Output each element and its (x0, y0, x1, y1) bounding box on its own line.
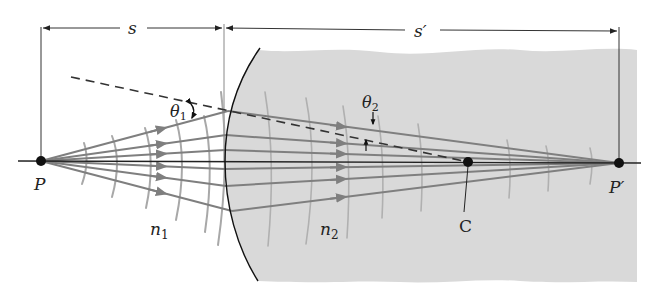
label-P-prime: P′ (608, 177, 624, 197)
incident-ray-arrows (150, 129, 162, 193)
label-n1: n1 (150, 219, 169, 242)
label-C: C (459, 216, 472, 236)
refraction-diagram: s s′ P P′ C n1 n2 θ1 θ2 (0, 0, 651, 305)
label-theta1: θ1 (170, 102, 187, 123)
image-point-P-prime (614, 158, 624, 168)
label-s: s (128, 18, 137, 38)
center-point-C (463, 157, 473, 167)
label-P: P (33, 174, 46, 194)
label-s-prime: s′ (414, 21, 427, 41)
object-point-P (36, 156, 46, 166)
theta1-marker (191, 104, 194, 118)
